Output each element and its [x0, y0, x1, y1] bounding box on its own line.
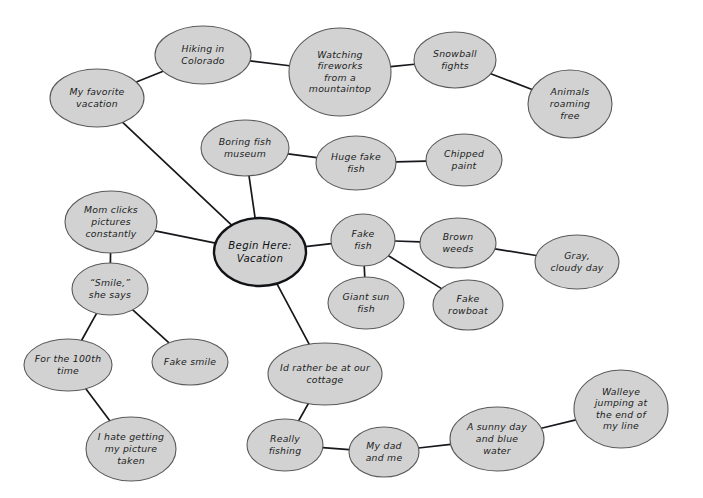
- node-label-smile-she-says: “Smile,”she says: [89, 277, 131, 300]
- node-label-line: Colorado: [181, 54, 225, 65]
- mindmap-node-walleye-jumping[interactable]: Walleyejumping atthe end ofmy line: [574, 370, 668, 448]
- mindmap-node-fake-fish[interactable]: Fakefish: [331, 214, 395, 266]
- node-label-line: My dad: [366, 440, 401, 451]
- mindmap-node-boring-fish-museum[interactable]: Boring fishmuseum: [201, 120, 289, 176]
- node-label-line: Snowball: [433, 48, 477, 59]
- node-label-line: Really: [270, 433, 300, 444]
- mindmap-diagram: Begin Here:VacationMy favoritevacationHi…: [0, 0, 703, 498]
- mindmap-edge: [364, 266, 365, 277]
- mindmap-edge: [323, 448, 349, 450]
- node-label-boring-fish-museum: Boring fishmuseum: [219, 136, 272, 159]
- mindmap-node-really-fishing[interactable]: Reallyfishing: [247, 419, 323, 471]
- mindmap-edge: [305, 244, 331, 247]
- node-label-line: Mom clicks: [84, 204, 138, 215]
- node-label-line: A sunny day: [466, 421, 527, 432]
- node-label-line: she says: [89, 288, 131, 299]
- mindmap-edge: [395, 241, 420, 242]
- node-label-line: weeds: [442, 242, 473, 253]
- node-label-line: jumping at: [593, 397, 648, 408]
- node-label-line: fish: [347, 162, 365, 173]
- node-label-line: Boring fish: [219, 136, 272, 147]
- node-label-line: pictures: [90, 216, 131, 227]
- node-label-line: fish: [354, 239, 372, 250]
- mindmap-node-animals-roaming-free[interactable]: Animalsroamingfree: [528, 70, 612, 138]
- node-layer: Begin Here:VacationMy favoritevacationHi…: [24, 26, 668, 481]
- node-label-line: Fake smile: [164, 356, 216, 367]
- node-label-line: fights: [441, 59, 469, 70]
- node-label-line: fireworks: [318, 60, 363, 71]
- mindmap-node-fake-rowboat[interactable]: Fakerowboat: [433, 280, 503, 330]
- node-label-line: and me: [366, 451, 403, 462]
- mindmap-edge: [277, 284, 309, 345]
- node-label-line: and blue: [476, 433, 519, 444]
- mindmap-node-huge-fake-fish[interactable]: Huge fakefish: [316, 136, 396, 190]
- node-label-line: Fake: [456, 293, 479, 304]
- mindmap-edge: [299, 404, 309, 421]
- node-label-line: fishing: [269, 444, 302, 455]
- mindmap-node-mom-clicks-pictures[interactable]: Mom clickspicturesconstantly: [65, 191, 157, 253]
- mindmap-edge: [541, 420, 576, 428]
- mindmap-edge: [419, 444, 451, 448]
- node-label-my-dad-and-me: My dadand me: [366, 440, 403, 463]
- node-label-line: rowboat: [448, 304, 488, 315]
- mindmap-edge: [136, 71, 163, 82]
- node-label-line: Chipped: [444, 148, 484, 159]
- mindmap-edge: [133, 310, 169, 343]
- mindmap-canvas: Begin Here:VacationMy favoritevacationHi…: [0, 0, 703, 498]
- node-label-hiking-in-colorado: Hiking inColorado: [181, 43, 225, 66]
- mindmap-edge: [491, 74, 532, 90]
- mindmap-node-watching-fireworks[interactable]: Watchingfireworksfrom amountaintop: [289, 28, 391, 116]
- node-label-line: museum: [224, 147, 266, 158]
- node-label-fake-smile: Fake smile: [164, 356, 216, 367]
- node-label-line: “Smile,”: [90, 277, 130, 288]
- mindmap-edge: [288, 154, 317, 158]
- node-label-line: from a: [324, 71, 356, 82]
- node-label-line: vacation: [76, 97, 118, 108]
- mindmap-node-a-sunny-day-and-blue-water[interactable]: A sunny dayand bluewater: [450, 407, 544, 471]
- mindmap-edge: [82, 313, 97, 340]
- node-label-line: my picture: [105, 443, 158, 454]
- node-label-line: time: [57, 364, 79, 375]
- node-label-mom-clicks-pictures: Mom clickspicturesconstantly: [84, 204, 138, 238]
- mindmap-edge: [250, 61, 289, 66]
- node-label-line: My favorite: [69, 86, 124, 97]
- mindmap-node-my-dad-and-me[interactable]: My dadand me: [349, 427, 419, 477]
- node-label-line: roaming: [550, 98, 590, 109]
- node-label-line: my line: [603, 420, 639, 431]
- mindmap-node-fake-smile[interactable]: Fake smile: [152, 339, 228, 385]
- mindmap-node-brown-weeds[interactable]: Brownweeds: [420, 218, 496, 268]
- mindmap-edge: [495, 249, 536, 256]
- node-label-line: For the 100th: [35, 353, 102, 364]
- node-label-line: constantly: [86, 227, 137, 238]
- mindmap-node-for-the-100th-time[interactable]: For the 100thtime: [24, 339, 112, 391]
- mindmap-node-root[interactable]: Begin Here:Vacation: [214, 218, 306, 286]
- node-label-line: Watching: [317, 48, 362, 59]
- mindmap-edge: [391, 64, 415, 66]
- node-label-line: Brown: [443, 231, 474, 242]
- mindmap-node-chipped-paint[interactable]: Chippedpaint: [426, 134, 502, 186]
- node-label-line: Hiking in: [181, 43, 224, 54]
- node-label-line: Walleye: [602, 385, 640, 396]
- mindmap-node-giant-sun-fish[interactable]: Giant sunfish: [328, 277, 404, 329]
- node-label-line: taken: [117, 454, 145, 465]
- node-label-line: free: [560, 109, 580, 120]
- mindmap-node-hiking-in-colorado[interactable]: Hiking inColorado: [155, 26, 251, 84]
- node-label-line: Vacation: [237, 253, 283, 264]
- mindmap-node-id-rather-be-at-our-cottage[interactable]: Id rather be at ourcottage: [268, 343, 382, 405]
- node-label-line: Giant sun: [343, 291, 390, 302]
- mindmap-node-i-hate-getting-my-picture-taken[interactable]: I hate gettingmy picturetaken: [86, 417, 176, 481]
- mindmap-edge: [396, 161, 426, 162]
- node-label-brown-weeds: Brownweeds: [442, 231, 473, 254]
- node-label-line: mountaintop: [309, 83, 371, 94]
- node-label-fake-fish: Fakefish: [351, 228, 374, 251]
- node-label-line: Animals: [550, 86, 590, 97]
- mindmap-node-snowball-fights[interactable]: Snowballfights: [414, 32, 496, 88]
- mindmap-node-smile-she-says[interactable]: “Smile,”she says: [72, 263, 148, 315]
- node-label-line: Id rather be at our: [280, 362, 371, 373]
- mindmap-node-gray-cloudy-day[interactable]: Gray,cloudy day: [535, 235, 619, 289]
- node-label-line: cottage: [306, 373, 343, 384]
- mindmap-edge: [249, 176, 255, 218]
- node-label-line: Huge fake: [331, 151, 381, 162]
- mindmap-edge: [86, 389, 110, 421]
- mindmap-node-my-favorite-vacation[interactable]: My favoritevacation: [50, 69, 144, 127]
